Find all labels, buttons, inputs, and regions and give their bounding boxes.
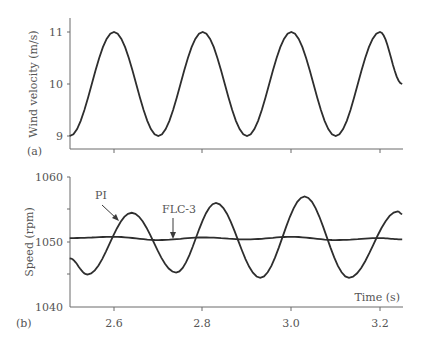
wind-velocity-curve [70, 32, 403, 136]
xtick-label-2.6: 2.6 [105, 317, 123, 330]
ytick-label-a-10: 10 [49, 78, 63, 91]
xtick-label-3.0: 3.0 [282, 317, 300, 330]
ytick-label-a-9: 9 [56, 130, 63, 143]
x-axis-label: Time (s) [354, 291, 400, 304]
annotation-pi-label: PI [95, 189, 107, 202]
flc3-speed-curve [70, 237, 403, 240]
arrowhead-flc-icon [170, 232, 176, 239]
xtick-label-3.2: 3.2 [371, 317, 389, 330]
ytick-label-b-1060: 1060 [35, 171, 63, 184]
panel-b: 1060 1050 1040 2.6 2.8 3.0 3.2 Speed (rp… [16, 171, 403, 330]
ytick-label-a-11: 11 [49, 26, 63, 39]
ytick-label-b-1050: 1050 [35, 236, 63, 249]
y-axis-label-a: Wind velocity (m/s) [27, 30, 40, 137]
ytick-label-b-1040: 1040 [35, 301, 63, 314]
xtick-label-2.8: 2.8 [193, 317, 211, 330]
y-axis-label-b: Speed (rpm) [23, 207, 36, 276]
figure: 11 10 9 Wind velocity (m/s) (a) 1060 105… [0, 0, 422, 348]
panel-label-b: (b) [16, 317, 32, 330]
annotation-flc-label: FLC-3 [162, 203, 196, 216]
panel-a: 11 10 9 Wind velocity (m/s) (a) [27, 18, 403, 158]
panel-label-a: (a) [27, 145, 42, 158]
